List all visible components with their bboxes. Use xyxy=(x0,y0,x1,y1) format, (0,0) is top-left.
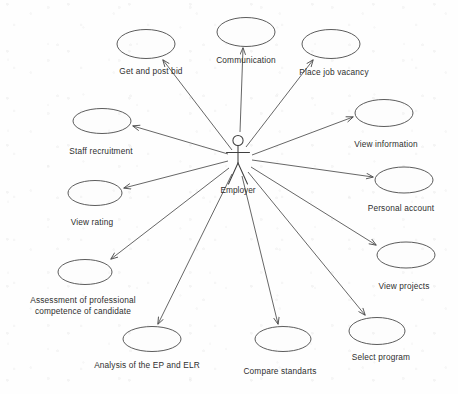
use-case-compare-standarts[interactable] xyxy=(255,327,311,352)
actor-employer[interactable] xyxy=(227,135,250,184)
association-assessment-of-professional-competence xyxy=(111,168,229,259)
use-case-view-projects[interactable] xyxy=(377,242,435,268)
use-case-select-program[interactable] xyxy=(349,318,405,345)
association-compare-standarts xyxy=(242,176,278,324)
use-case-get-and-post-bid[interactable] xyxy=(117,30,175,59)
use-case-staff-recruitment[interactable] xyxy=(73,109,131,134)
use-case-view-rating[interactable] xyxy=(68,181,122,206)
association-analysis-ep-elr xyxy=(158,174,232,324)
use-case-personal-account[interactable] xyxy=(375,167,433,193)
use-case-label-get-and-post-bid: Get and post bid xyxy=(119,66,182,77)
use-case-place-job-vacancy[interactable] xyxy=(302,30,360,59)
use-case-label-assessment-of-professional-competence: Assessment of professional competence of… xyxy=(20,295,146,316)
use-case-label-analysis-ep-elr: Analysis of the EP and ELR xyxy=(94,360,200,371)
association-view-projects xyxy=(251,167,376,245)
use-case-label-personal-account: Personal account xyxy=(368,203,435,214)
use-case-diagram: Get and post bidCommunicationPlace job v… xyxy=(0,0,458,394)
use-case-label-view-rating: View rating xyxy=(71,217,114,228)
use-case-label-staff-recruitment: Staff recruitment xyxy=(69,146,132,157)
association-view-information xyxy=(252,117,353,155)
association-personal-account xyxy=(252,160,373,177)
use-case-label-compare-standarts: Compare standarts xyxy=(243,366,316,377)
actor-label-employer: Employer xyxy=(220,185,255,195)
use-case-label-communication: Communication xyxy=(216,55,276,66)
use-case-view-information[interactable] xyxy=(355,100,413,127)
use-case-label-place-job-vacancy: Place job vacancy xyxy=(299,67,368,78)
association-view-rating xyxy=(124,161,228,188)
use-case-assessment-of-professional-competence[interactable] xyxy=(58,260,112,285)
association-staff-recruitment xyxy=(133,126,228,154)
use-case-label-view-projects: View projects xyxy=(378,281,429,292)
use-case-label-select-program: Select program xyxy=(352,352,410,363)
use-case-analysis-ep-elr[interactable] xyxy=(123,327,181,352)
association-select-program xyxy=(248,172,365,315)
use-case-label-view-information: View information xyxy=(354,139,418,150)
use-case-communication[interactable] xyxy=(217,18,275,47)
